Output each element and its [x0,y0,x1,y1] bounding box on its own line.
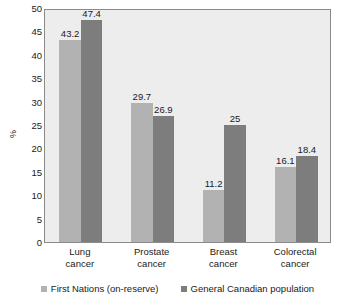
x-category-label-line2: cancer [188,258,260,270]
x-category-label-line1: Colorectal [274,246,317,257]
x-category-label-line2: cancer [44,258,116,270]
y-tick-label: 30 [20,98,42,108]
legend-item[interactable]: General Canadian population [181,283,315,294]
x-category-label-line1: Breast [210,246,237,257]
chart-legend: First Nations (on-reserve)General Canadi… [0,283,355,294]
y-tick-label: 15 [20,168,42,178]
bar-group: 11.225 [203,10,246,242]
bar-value-label: 47.4 [82,9,101,19]
bar: 43.2 [59,40,81,242]
bar-value-label: 16.1 [276,156,295,166]
bar-value-label: 26.9 [154,105,173,115]
x-category-label: Prostatecancer [116,246,188,269]
y-axis-title: % [8,125,18,143]
bar: 18.4 [296,156,318,242]
bar-group: 43.247.4 [59,10,102,242]
y-tick-label: 35 [20,74,42,84]
y-tick-label: 50 [20,4,42,14]
y-tick-label: 40 [20,51,42,61]
bar-group: 16.118.4 [275,10,318,242]
y-tick-label: 10 [20,191,42,201]
bar: 47.4 [81,20,103,242]
x-category-label-line1: Lung [69,246,90,257]
y-tick-label: 45 [20,28,42,38]
plot-inner: 43.247.429.726.911.22516.118.4 [45,10,330,242]
plot-area: 43.247.429.726.911.22516.118.4 [44,9,331,243]
x-category-label: Lungcancer [44,246,116,269]
bar: 11.2 [203,190,225,242]
x-category-label: Breastcancer [188,246,260,269]
bar: 26.9 [153,116,175,242]
y-tick-label: 20 [20,145,42,155]
bar: 29.7 [131,103,153,242]
bar-value-label: 25 [230,114,241,124]
y-tick-label: 0 [20,238,42,248]
y-tick-label: 25 [20,121,42,131]
x-category-label-line2: cancer [116,258,188,270]
legend-label: First Nations (on-reserve) [51,283,159,294]
bar: 16.1 [275,167,297,242]
legend-label: General Canadian population [191,283,315,294]
bar-group: 29.726.9 [131,10,174,242]
x-category-label-line1: Prostate [134,246,169,257]
bar-value-label: 11.2 [205,179,223,189]
y-tick-label: 5 [20,215,42,225]
bar-value-label: 29.7 [133,92,152,102]
bar-value-label: 43.2 [61,29,80,39]
legend-swatch-icon [41,286,47,292]
x-category-label-line2: cancer [259,258,331,270]
y-axis-tick-labels: 50454035302520151050 [20,9,42,243]
x-category-label: Colorectalcancer [259,246,331,269]
legend-swatch-icon [181,286,187,292]
bar: 25 [224,125,246,242]
bar-chart-figure: % 50454035302520151050 43.247.429.726.91… [0,0,355,307]
bar-value-label: 18.4 [298,145,317,155]
x-axis-category-labels: LungcancerProstatecancerBreastcancerColo… [44,246,331,272]
legend-item[interactable]: First Nations (on-reserve) [41,283,159,294]
